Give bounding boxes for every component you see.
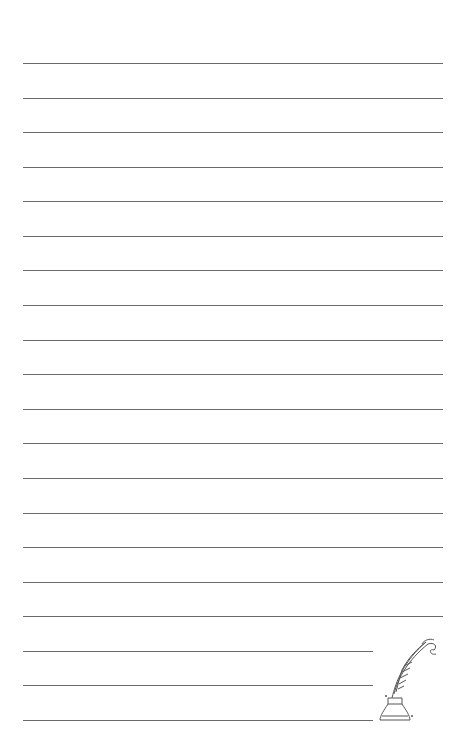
ruled-line	[23, 98, 443, 99]
quill-inkwell-icon	[378, 636, 448, 726]
ruled-line	[23, 132, 443, 133]
ruled-line	[23, 478, 443, 479]
ruled-line	[23, 201, 443, 202]
ruled-line	[23, 63, 443, 64]
ruled-line	[23, 340, 443, 341]
ruled-line	[23, 305, 443, 306]
ruled-line	[23, 547, 443, 548]
ruled-line	[23, 616, 443, 617]
ruled-line	[23, 270, 443, 271]
ruled-line	[23, 720, 373, 721]
ruled-line	[23, 236, 443, 237]
ruled-line	[23, 167, 443, 168]
ruled-line	[23, 443, 443, 444]
ruled-line	[23, 651, 373, 652]
ruled-line	[23, 374, 443, 375]
ruled-line	[23, 409, 443, 410]
ruled-line	[23, 582, 443, 583]
ruled-line	[23, 685, 373, 686]
ruled-line	[23, 513, 443, 514]
